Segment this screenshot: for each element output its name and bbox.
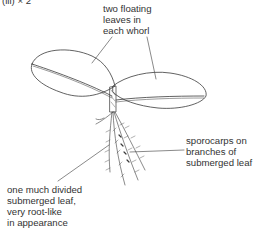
- right-floating-leaf: [113, 72, 206, 108]
- plant-illustration: [0, 0, 263, 240]
- left-floating-leaf: [31, 50, 115, 98]
- submerged-leaf: [96, 112, 145, 185]
- leader-lines: [58, 37, 184, 181]
- leader-sporocarps: [130, 150, 184, 152]
- leader-floating-left: [92, 37, 112, 63]
- leader-submerged: [58, 145, 109, 181]
